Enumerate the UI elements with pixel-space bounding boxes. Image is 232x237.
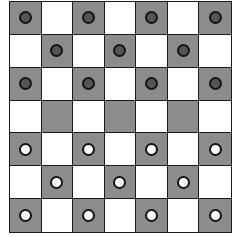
board-square-r2-c5[interactable] — [168, 68, 200, 101]
board-square-r6-c5[interactable] — [168, 199, 200, 232]
dark-checker-piece[interactable] — [209, 77, 222, 90]
light-checker-piece[interactable] — [113, 176, 126, 189]
board-square-r1-c4[interactable] — [136, 35, 168, 68]
board-square-r3-c2[interactable] — [73, 101, 105, 134]
board-square-r1-c6[interactable] — [199, 35, 231, 68]
board-square-r3-c4[interactable] — [136, 101, 168, 134]
board-square-r4-c1[interactable] — [42, 133, 74, 166]
dark-checker-piece[interactable] — [113, 44, 126, 57]
board-square-r2-c4[interactable] — [136, 68, 168, 101]
board-square-r2-c2[interactable] — [73, 68, 105, 101]
board-square-r0-c6[interactable] — [199, 2, 231, 35]
board-square-r0-c3[interactable] — [105, 2, 137, 35]
board-square-r5-c3[interactable] — [105, 166, 137, 199]
board-square-r1-c2[interactable] — [73, 35, 105, 68]
board-square-r1-c0[interactable] — [10, 35, 42, 68]
board-square-r0-c2[interactable] — [73, 2, 105, 35]
board-square-r3-c1[interactable] — [42, 101, 74, 134]
light-checker-piece[interactable] — [82, 143, 95, 156]
dark-checker-piece[interactable] — [50, 44, 63, 57]
board-square-r6-c4[interactable] — [136, 199, 168, 232]
board-square-r5-c1[interactable] — [42, 166, 74, 199]
board-square-r0-c4[interactable] — [136, 2, 168, 35]
board-square-r2-c0[interactable] — [10, 68, 42, 101]
board-square-r2-c6[interactable] — [199, 68, 231, 101]
board-square-r5-c4[interactable] — [136, 166, 168, 199]
dark-checker-piece[interactable] — [209, 11, 222, 24]
board-square-r4-c4[interactable] — [136, 133, 168, 166]
board-square-r0-c5[interactable] — [168, 2, 200, 35]
board-square-r3-c0[interactable] — [10, 101, 42, 134]
board-square-r3-c5[interactable] — [168, 101, 200, 134]
light-checker-piece[interactable] — [145, 209, 158, 222]
board-square-r0-c0[interactable] — [10, 2, 42, 35]
dark-checker-piece[interactable] — [145, 11, 158, 24]
board-square-r6-c2[interactable] — [73, 199, 105, 232]
board-square-r5-c2[interactable] — [73, 166, 105, 199]
board-square-r6-c6[interactable] — [199, 199, 231, 232]
dark-checker-piece[interactable] — [82, 77, 95, 90]
light-checker-piece[interactable] — [145, 143, 158, 156]
board-square-r1-c1[interactable] — [42, 35, 74, 68]
light-checker-piece[interactable] — [19, 143, 32, 156]
dark-checker-piece[interactable] — [82, 11, 95, 24]
board-square-r1-c3[interactable] — [105, 35, 137, 68]
light-checker-piece[interactable] — [19, 209, 32, 222]
dark-checker-piece[interactable] — [19, 77, 32, 90]
board-square-r4-c3[interactable] — [105, 133, 137, 166]
light-checker-piece[interactable] — [82, 209, 95, 222]
board-square-r5-c5[interactable] — [168, 166, 200, 199]
board-square-r2-c1[interactable] — [42, 68, 74, 101]
board-square-r5-c6[interactable] — [199, 166, 231, 199]
board-square-r0-c1[interactable] — [42, 2, 74, 35]
board-square-r6-c3[interactable] — [105, 199, 137, 232]
board-square-r4-c6[interactable] — [199, 133, 231, 166]
dark-checker-piece[interactable] — [19, 11, 32, 24]
board-square-r4-c2[interactable] — [73, 133, 105, 166]
board-square-r2-c3[interactable] — [105, 68, 137, 101]
board-square-r1-c5[interactable] — [168, 35, 200, 68]
board-square-r4-c5[interactable] — [168, 133, 200, 166]
light-checker-piece[interactable] — [177, 176, 190, 189]
board-square-r4-c0[interactable] — [10, 133, 42, 166]
light-checker-piece[interactable] — [209, 209, 222, 222]
light-checker-piece[interactable] — [209, 143, 222, 156]
board-square-r3-c3[interactable] — [105, 101, 137, 134]
checkerboard — [9, 1, 232, 233]
dark-checker-piece[interactable] — [145, 77, 158, 90]
dark-checker-piece[interactable] — [177, 44, 190, 57]
board-square-r3-c6[interactable] — [199, 101, 231, 134]
board-square-r6-c1[interactable] — [42, 199, 74, 232]
board-square-r6-c0[interactable] — [10, 199, 42, 232]
board-square-r5-c0[interactable] — [10, 166, 42, 199]
light-checker-piece[interactable] — [50, 176, 63, 189]
